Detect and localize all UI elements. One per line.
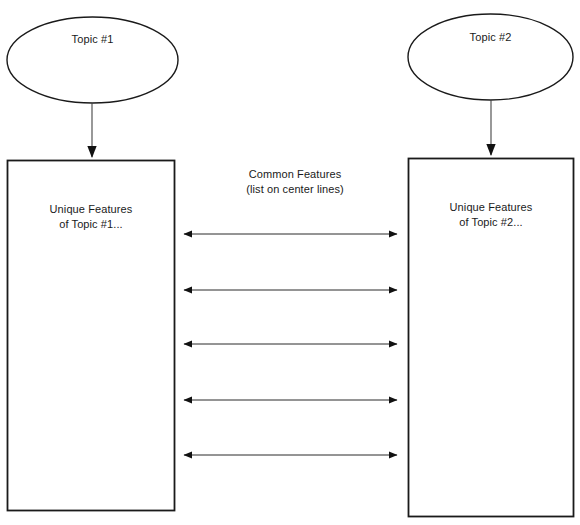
topic-2-box-label-line-1: Unique Features xyxy=(408,200,574,215)
topic-2-box-label: Unique Features of Topic #2... xyxy=(408,200,574,230)
common-features-label: Common Features (list on center lines) xyxy=(208,167,382,197)
common-features-title: Common Features xyxy=(208,167,382,182)
topic-2-ellipse xyxy=(408,14,573,100)
diagram-canvas: Topic #1 Topic #2 Unique Features of Top… xyxy=(0,0,580,525)
topic-1-box-label-line-1: Unique Features xyxy=(7,202,175,217)
topic-1-title: Topic #1 xyxy=(7,32,178,47)
common-features-subtitle: (list on center lines) xyxy=(208,182,382,197)
topic-2-title: Topic #2 xyxy=(408,30,573,45)
topic-1-ellipse xyxy=(7,17,178,103)
topic-1-title-text: Topic #1 xyxy=(7,32,178,47)
topic-2-title-text: Topic #2 xyxy=(408,30,573,45)
topic-2-box-label-line-2: of Topic #2... xyxy=(408,215,574,230)
topic-1-box-label: Unique Features of Topic #1... xyxy=(7,202,175,232)
topic-1-box-label-line-2: of Topic #1... xyxy=(7,217,175,232)
diagram-shapes-layer xyxy=(0,0,580,525)
